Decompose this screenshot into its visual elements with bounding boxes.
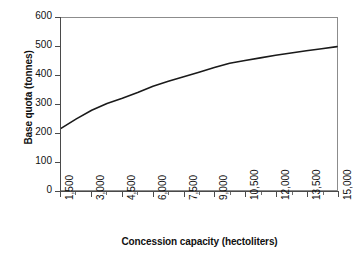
x-tick-mark <box>91 192 92 197</box>
y-tick-label: 500 <box>12 39 52 50</box>
x-tick-label: 12,000 <box>280 169 291 200</box>
x-tick-label: 3,000 <box>95 175 106 200</box>
x-tick-minor <box>75 192 76 195</box>
x-tick-mark <box>338 192 339 197</box>
x-tick-label: 15,000 <box>342 169 353 200</box>
x-tick-minor <box>292 192 293 195</box>
x-tick-minor <box>230 192 231 195</box>
x-tick-minor <box>199 192 200 195</box>
x-tick-minor <box>323 192 324 195</box>
x-tick-mark <box>307 192 308 197</box>
x-tick-label: 7,500 <box>188 175 199 200</box>
y-tick-label: 0 <box>12 184 52 195</box>
x-tick-mark <box>245 192 246 197</box>
data-curve <box>61 18 337 190</box>
x-tick-mark <box>153 192 154 197</box>
x-tick-mark <box>214 192 215 197</box>
x-tick-mark <box>184 192 185 197</box>
x-tick-mark <box>276 192 277 197</box>
x-tick-label: 13,500 <box>311 169 322 200</box>
x-axis-title: Concession capacity (hectoliters) <box>60 236 339 247</box>
y-axis-line <box>60 17 61 192</box>
x-tick-label: 1,500 <box>64 175 75 200</box>
x-tick-minor <box>137 192 138 195</box>
y-tick-label: 400 <box>12 68 52 79</box>
x-tick-minor <box>106 192 107 195</box>
y-tick-label: 100 <box>12 155 52 166</box>
x-tick-label: 6,000 <box>157 175 168 200</box>
chart-figure: Base quota (tonnes) 0100200300400500600 … <box>0 0 359 260</box>
x-tick-label: 10,500 <box>249 169 260 200</box>
x-tick-mark <box>60 192 61 197</box>
plot-area <box>60 17 338 191</box>
x-tick-label: 9,000 <box>218 175 229 200</box>
x-tick-mark <box>122 192 123 197</box>
x-tick-minor <box>168 192 169 195</box>
x-tick-label: 4,500 <box>126 175 137 200</box>
y-tick-label: 600 <box>12 10 52 21</box>
y-tick-label: 200 <box>12 126 52 137</box>
y-tick-label: 300 <box>12 97 52 108</box>
x-tick-minor <box>261 192 262 195</box>
